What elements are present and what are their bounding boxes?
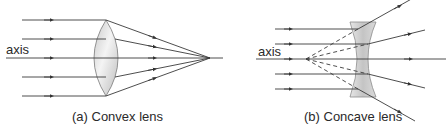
axis-label-convex: axis: [6, 42, 29, 57]
convex-lens-panel: [6, 20, 223, 96]
caption-concave: (b) Concave lens: [304, 109, 402, 124]
caption-convex: (a) Convex lens: [72, 109, 163, 124]
axis-label-concave: axis: [258, 44, 281, 59]
concave-lens-panel: [256, 0, 446, 121]
concave-lens: [350, 22, 376, 97]
